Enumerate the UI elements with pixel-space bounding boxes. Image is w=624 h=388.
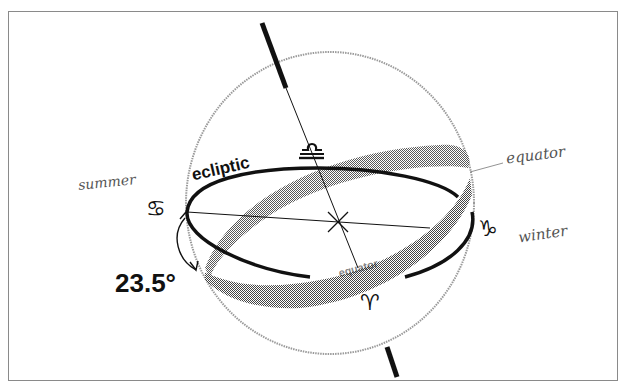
- tilt-angle-label: 23.5°: [115, 268, 176, 299]
- polar-axis-top-thick: [262, 23, 286, 88]
- capricorn-symbol-icon: ♑: [478, 216, 498, 241]
- cancer-symbol-icon: ♋: [146, 196, 166, 221]
- equator-band-front: [205, 178, 472, 308]
- equator-pointer-line: [470, 163, 503, 172]
- celestial-sphere-diagram: [0, 0, 624, 388]
- celestial-sphere-outline: [186, 52, 474, 354]
- solstice-line: [187, 212, 430, 228]
- polar-axis-bottom-thick: [387, 347, 397, 377]
- aries-symbol-icon: ♈: [360, 290, 380, 315]
